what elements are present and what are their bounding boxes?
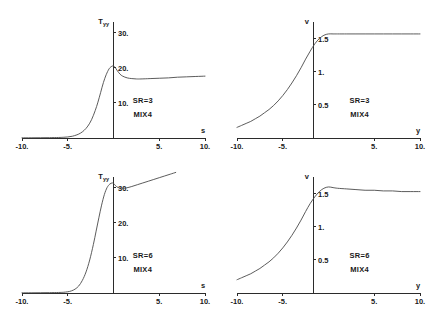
annotation-strain-rate: SR=6 (133, 251, 153, 260)
y-tick-label: 0.5 (318, 256, 328, 265)
y-tick-label: 30. (118, 29, 128, 38)
x-tick-label: 10. (200, 142, 210, 151)
panel-bottom-right: -10.-5.5.10.0.51.1.5yvSR=6MIX4 (215, 155, 429, 310)
x-tick-label: -5. (278, 297, 287, 306)
y-tick-label: 0.5 (318, 101, 328, 110)
annotation-strain-rate: SR=3 (133, 96, 153, 105)
x-tick-label: 5. (371, 297, 377, 306)
annotation-mixture: MIX4 (133, 265, 152, 274)
data-curve (237, 34, 420, 128)
x-tick-label: -5. (63, 297, 72, 306)
annotation-mixture: MIX4 (350, 110, 369, 119)
x-axis-label: y (416, 126, 421, 135)
y-axis-label: v (305, 172, 310, 181)
x-tick-label: 5. (156, 297, 162, 306)
x-axis-label: s (201, 281, 205, 290)
annotation-strain-rate: SR=3 (350, 96, 370, 105)
y-tick-label: 20. (118, 64, 128, 73)
y-tick-label: 20. (118, 219, 128, 228)
panel-top-left: -10.-5.5.10.10.20.30.sTyySR=3MIX4 (0, 0, 214, 155)
x-tick-label: 10. (415, 142, 425, 151)
y-tick-label: 1. (318, 223, 324, 232)
annotation-mixture: MIX4 (350, 265, 369, 274)
x-tick-label: -10. (16, 297, 29, 306)
data-curve (237, 187, 420, 280)
x-tick-label: 10. (415, 297, 425, 306)
annotation-mixture: MIX4 (133, 110, 152, 119)
x-tick-label: -5. (63, 142, 72, 151)
y-tick-label: 1. (318, 68, 324, 77)
figure-panel-grid: -10.-5.5.10.10.20.30.sTyySR=3MIX4-10.-5.… (0, 0, 429, 311)
panel-bottom-left: -10.-5.5.10.10.20.30.sTyySR=6MIX4 (0, 155, 214, 310)
y-tick-label: 10. (118, 99, 128, 108)
x-axis-label: s (201, 126, 205, 135)
x-tick-label: 10. (200, 297, 210, 306)
panel-top-right: -10.-5.5.10.0.51.1.5yvSR=3MIX4 (215, 0, 429, 155)
y-axis-label: Tyy (98, 172, 110, 182)
y-tick-label: 10. (118, 254, 128, 263)
y-axis-label: Tyy (98, 17, 110, 27)
y-axis-label: v (305, 17, 310, 26)
annotation-strain-rate: SR=6 (350, 251, 370, 260)
data-curve (22, 172, 176, 292)
x-tick-label: 5. (156, 142, 162, 151)
x-tick-label: -10. (16, 142, 29, 151)
x-tick-label: -10. (231, 297, 244, 306)
x-axis-label: y (416, 281, 421, 290)
x-tick-label: 5. (371, 142, 377, 151)
x-tick-label: -10. (231, 142, 244, 151)
x-tick-label: -5. (278, 142, 287, 151)
